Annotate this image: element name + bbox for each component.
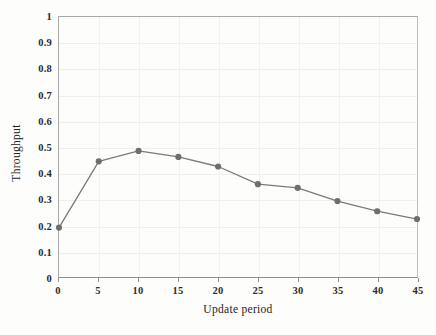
x-axis-tick-mark [378, 278, 379, 282]
x-axis-tick-mark [298, 278, 299, 282]
y-axis-tick-label: 0.8 [38, 63, 52, 74]
x-axis-title: Update period [58, 303, 418, 315]
data-series-line [59, 17, 417, 277]
data-point-marker [56, 225, 62, 231]
x-axis-tick-mark [178, 278, 179, 282]
x-axis-tick-label: 0 [55, 285, 60, 296]
y-axis-tick-label: 0.1 [38, 246, 52, 257]
y-axis-tick-label: 0.5 [38, 142, 52, 153]
data-point-marker [295, 185, 301, 191]
x-axis-tick-label: 35 [333, 285, 344, 296]
x-axis-tick-label: 10 [133, 285, 144, 296]
x-axis-tick-label: 25 [253, 285, 264, 296]
y-axis-tick-label: 0.3 [38, 194, 52, 205]
x-axis-tick-labels: 051015202530354045 [58, 285, 418, 301]
y-axis-tick-label: 0.2 [38, 220, 52, 231]
x-axis-tick-mark [258, 278, 259, 282]
series-polyline [59, 151, 417, 228]
x-axis-tick-label: 30 [293, 285, 304, 296]
data-point-marker [215, 163, 221, 169]
y-axis-tick-label: 0 [47, 273, 52, 284]
x-axis-tick-label: 15 [173, 285, 184, 296]
x-axis-tick-label: 20 [213, 285, 224, 296]
y-axis-title: Throughput [10, 93, 22, 213]
y-axis-tick-label: 1 [47, 11, 52, 22]
x-axis-tick-mark [218, 278, 219, 282]
chart-figure: 00.10.20.30.40.50.60.70.80.91 Throughput… [0, 0, 436, 335]
x-axis-tick-mark [138, 278, 139, 282]
plot-area [58, 16, 418, 278]
x-axis-tick-mark [98, 278, 99, 282]
x-axis-tick-mark [418, 278, 419, 282]
data-point-marker [414, 216, 420, 222]
x-axis-tick-mark [58, 278, 59, 282]
data-point-marker [255, 181, 261, 187]
x-axis-tick-label: 5 [95, 285, 100, 296]
x-axis-tick-label: 45 [413, 285, 424, 296]
y-axis-tick-label: 0.7 [38, 89, 52, 100]
x-axis-tick-marks [58, 278, 418, 283]
y-axis-tick-label: 0.4 [38, 168, 52, 179]
data-point-marker [96, 158, 102, 164]
x-axis-tick-label: 40 [373, 285, 384, 296]
data-point-marker [135, 148, 141, 154]
y-axis-tick-label: 0.9 [38, 37, 52, 48]
data-point-marker [374, 208, 380, 214]
x-axis-tick-mark [338, 278, 339, 282]
data-point-marker [175, 154, 181, 160]
data-point-marker [334, 198, 340, 204]
y-axis-tick-label: 0.6 [38, 115, 52, 126]
